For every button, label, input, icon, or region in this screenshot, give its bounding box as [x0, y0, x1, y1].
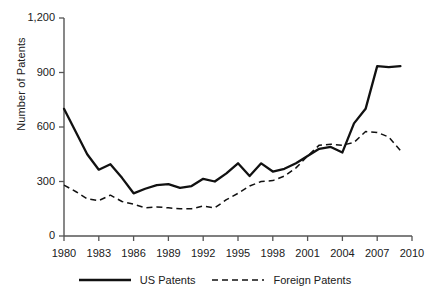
- patents-line-chart: Number of Patents 1,2009006003000 198019…: [0, 0, 429, 300]
- legend-swatch-solid: [78, 275, 132, 285]
- legend-item-us-patents: US Patents: [78, 274, 196, 286]
- plot-svg: [64, 18, 412, 236]
- y-axis-tick-label: 1,200: [13, 12, 55, 23]
- y-axis-tick-label: 300: [13, 176, 55, 187]
- y-axis-tick-label: 900: [13, 67, 55, 78]
- plot-area: [64, 18, 412, 236]
- series-line-us-patents: [64, 66, 400, 193]
- chart-legend: US Patents Foreign Patents: [0, 274, 429, 286]
- y-axis-title: Number of Patents: [15, 9, 27, 159]
- y-axis-tick-label: 600: [13, 121, 55, 132]
- x-axis-tick-label: 2010: [392, 248, 429, 259]
- y-axis-tick-label: 0: [13, 230, 55, 241]
- legend-label-us-patents: US Patents: [140, 274, 196, 286]
- legend-label-foreign-patents: Foreign Patents: [273, 274, 351, 286]
- legend-item-foreign-patents: Foreign Patents: [211, 274, 351, 286]
- y-axis-ticks: [59, 18, 64, 236]
- legend-swatch-dashed: [211, 275, 265, 285]
